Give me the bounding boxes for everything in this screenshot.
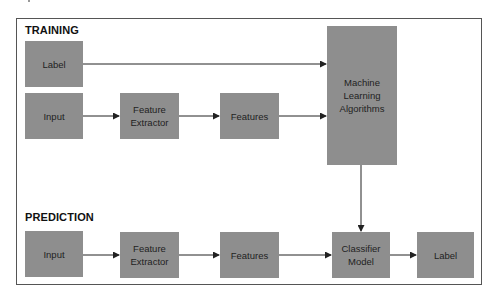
connector-arrows	[0, 0, 499, 299]
